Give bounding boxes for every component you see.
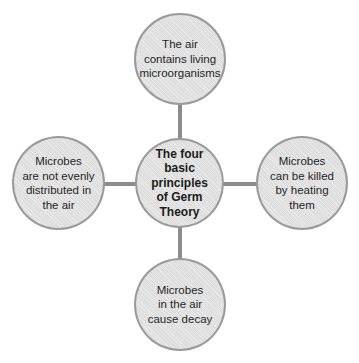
connector-right	[221, 182, 259, 186]
connector-left	[102, 182, 138, 186]
node-bottom-line-3: cause decay	[148, 312, 213, 327]
node-right-text: Microbes can be killed by heating them	[264, 154, 340, 212]
node-center-line-5: Theory	[151, 205, 208, 220]
node-left-line-4: the air	[22, 198, 94, 213]
node-right-line-2: can be killed	[270, 169, 334, 184]
node-left-line-2: are not evenly	[22, 169, 94, 184]
node-top-text: The air contains living microorganisms	[133, 37, 226, 81]
connector-top	[178, 102, 182, 138]
node-right-line-3: by heating	[270, 183, 334, 198]
node-center-line-1: The four	[151, 147, 208, 162]
node-top-line-2: contains living	[139, 52, 220, 67]
node-bottom: Microbes in the air cause decay	[134, 258, 226, 351]
node-bottom-line-1: Microbes	[148, 283, 213, 298]
node-left-line-1: Microbes	[22, 154, 94, 169]
node-center-line-3: principles	[151, 176, 208, 191]
node-center-line-2: basic	[151, 161, 208, 176]
node-left: Microbes are not evenly distributed in t…	[12, 136, 105, 230]
node-center-line-4: of Germ	[151, 190, 208, 205]
node-center-text: The four basic principles of Germ Theory	[145, 147, 214, 220]
node-top-line-1: The air	[139, 37, 220, 52]
node-bottom-line-2: in the air	[148, 297, 213, 312]
node-top: The air contains living microorganisms	[134, 13, 226, 105]
node-bottom-text: Microbes in the air cause decay	[142, 283, 219, 327]
node-right-line-4: them	[270, 198, 334, 213]
node-right: Microbes can be killed by heating them	[256, 136, 348, 230]
node-top-line-3: microorganisms	[139, 66, 220, 81]
node-left-line-3: distributed in	[22, 183, 94, 198]
node-right-line-1: Microbes	[270, 154, 334, 169]
node-left-text: Microbes are not evenly distributed in t…	[16, 154, 100, 212]
connector-bottom	[178, 226, 182, 260]
node-center: The four basic principles of Germ Theory	[135, 138, 224, 228]
